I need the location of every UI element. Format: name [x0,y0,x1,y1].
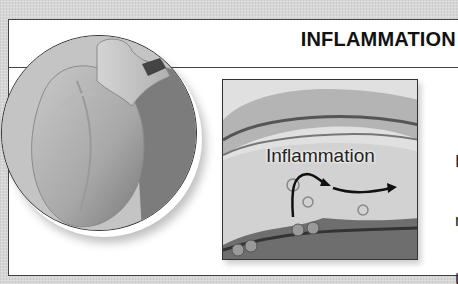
page-title: INFLAMMATION [301,28,456,51]
blood-vessel-inset: Inflammation [222,79,418,260]
inflammation-label: Inflammation [266,145,375,167]
heart-illustration-icon [1,35,197,231]
